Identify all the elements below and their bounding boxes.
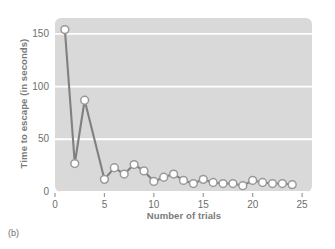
data-point-marker [239, 182, 247, 190]
data-point-marker [160, 173, 168, 181]
x-axis-tick-label: 20 [241, 199, 265, 210]
x-axis-tick-label: 10 [142, 199, 166, 210]
data-point-marker [61, 26, 69, 34]
x-axis-ticks [55, 193, 302, 197]
data-point-marker [101, 175, 109, 183]
data-point-marker [259, 179, 267, 187]
data-point-marker [269, 180, 277, 188]
data-point-marker [189, 180, 197, 188]
data-point-marker [199, 175, 207, 183]
data-point-marker [288, 181, 296, 189]
x-axis-tick-label: 25 [290, 199, 314, 210]
data-point-marker [120, 170, 128, 178]
data-point-marker [209, 179, 217, 187]
x-axis-tick-label: 15 [191, 199, 215, 210]
y-axis-title: Time to escape (in seconds) [18, 14, 29, 194]
panel-letter-label: (b) [8, 228, 19, 238]
data-point-marker [249, 177, 257, 185]
data-point-marker [180, 177, 188, 185]
data-point-marker [229, 180, 237, 188]
x-axis-tick-label: 0 [43, 199, 67, 210]
figure-panel-b: 050100150 0510152025 Time to escape (in … [0, 0, 335, 249]
data-point-marker [110, 164, 118, 172]
data-point-marker [150, 178, 158, 186]
data-point-marker [71, 160, 79, 168]
data-point-marker [278, 180, 286, 188]
data-point-marker [219, 180, 227, 188]
data-point-marker [170, 170, 178, 178]
x-axis-tick-label: 5 [92, 199, 116, 210]
plot-area-background [55, 18, 312, 192]
x-axis-title: Number of trials [55, 210, 313, 221]
data-point-marker [81, 96, 89, 104]
data-point-marker [140, 167, 148, 175]
data-point-marker [130, 161, 138, 169]
